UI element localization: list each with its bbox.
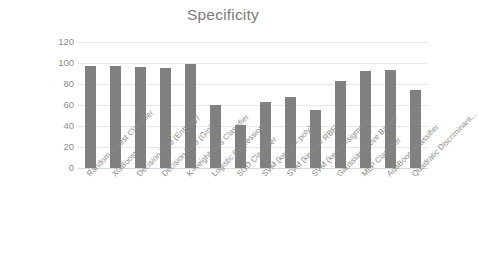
y-tick-label: 20 xyxy=(50,141,74,152)
chart-title: Specificity xyxy=(0,6,446,24)
y-tick-label: 100 xyxy=(50,57,74,68)
bar[interactable] xyxy=(85,66,96,168)
y-tick-label: 120 xyxy=(50,36,74,47)
y-axis-tick-labels: 020406080100120 xyxy=(50,36,74,172)
bars-layer xyxy=(78,42,428,168)
y-tick-label: 80 xyxy=(50,78,74,89)
y-tick-label: 40 xyxy=(50,120,74,131)
x-axis-tick-labels: Random Forest ClassifierXGBoostDecision … xyxy=(0,168,446,280)
y-tick-label: 60 xyxy=(50,99,74,110)
